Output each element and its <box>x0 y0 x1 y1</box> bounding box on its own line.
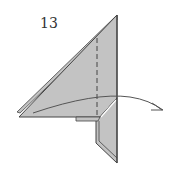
origami-step-illustration <box>0 0 179 172</box>
under-step <box>76 117 100 121</box>
origami-diagram: 13 <box>0 0 179 172</box>
fold-arrow-head-icon <box>151 103 163 110</box>
triangle-flap <box>19 15 117 117</box>
step-number: 13 <box>40 15 58 31</box>
